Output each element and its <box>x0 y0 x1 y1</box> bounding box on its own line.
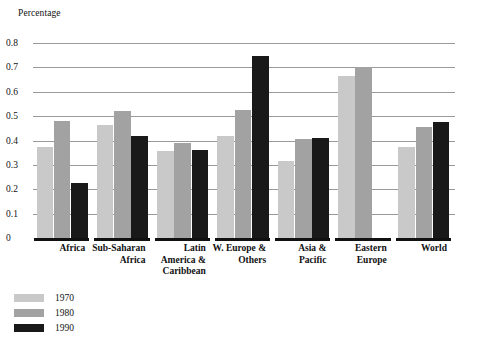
y-tick-label: 0.4 <box>6 136 18 146</box>
bar-1970 <box>398 147 415 238</box>
legend-swatch <box>14 294 44 302</box>
x-axis-label: World <box>389 243 447 255</box>
x-axis-label: Sub-SaharanAfrica <box>87 243 145 266</box>
x-axis-segment <box>34 238 89 241</box>
bar-1990 <box>312 138 329 238</box>
legend-label: 1990 <box>55 323 74 333</box>
y-tick-label: 0.3 <box>6 160 18 170</box>
x-axis-segment <box>275 238 330 241</box>
bar-group <box>334 43 394 238</box>
bar-1990 <box>131 136 148 238</box>
x-axis-label-line: Europe <box>328 255 386 267</box>
x-axis-label-line: Caribbean <box>148 266 206 278</box>
bar-1970 <box>157 151 174 238</box>
bar-1980 <box>174 143 191 238</box>
x-axis-label: Africa <box>27 243 85 255</box>
bar-1970 <box>278 161 295 238</box>
x-axis-label-line: Africa <box>87 255 145 267</box>
bar-1970 <box>217 136 234 238</box>
x-axis-segment <box>215 238 270 241</box>
bar-group <box>93 43 153 238</box>
x-axis-label-line: Latin <box>148 243 206 255</box>
legend-label: 1970 <box>55 293 74 303</box>
bar-1980 <box>235 110 252 238</box>
chart-legend: 197019801990 <box>14 292 74 337</box>
bar-1980 <box>355 67 372 238</box>
x-axis-label-line: Sub-Saharan <box>87 243 145 255</box>
legend-swatch <box>14 324 44 332</box>
x-axis-label-line: Others <box>208 255 266 267</box>
legend-item: 1970 <box>14 292 74 304</box>
x-axis-label-line: Pacific <box>268 255 326 267</box>
bar-1980 <box>295 139 312 238</box>
x-axis-label: W. Europe &Others <box>208 243 266 266</box>
x-axis-label: LatinAmerica &Caribbean <box>148 243 206 278</box>
x-axis-label-line: Eastern <box>328 243 386 255</box>
bar-1970 <box>37 147 54 238</box>
bar-1980 <box>54 121 71 238</box>
x-axis-label-line: Asia & <box>268 243 326 255</box>
bar-group <box>395 43 455 238</box>
y-tick-label: 0.6 <box>6 87 18 97</box>
x-axis-label-line: World <box>389 243 447 255</box>
bar-1970 <box>338 76 355 238</box>
bar-group <box>274 43 334 238</box>
x-axis-segment <box>155 238 210 241</box>
y-axis-title: Percentage <box>18 8 61 18</box>
x-axis-segment <box>94 238 149 241</box>
bar-groups-layer <box>33 43 455 238</box>
legend-item: 1990 <box>14 322 74 334</box>
x-axis-label-line: America & <box>148 255 206 267</box>
y-tick-label: 0.7 <box>6 62 18 72</box>
legend-swatch <box>14 309 44 317</box>
x-axis-label-line: W. Europe & <box>208 243 266 255</box>
bar-group <box>214 43 274 238</box>
x-axis-segment <box>396 238 451 241</box>
bar-group <box>154 43 214 238</box>
y-tick-label: 0.5 <box>6 111 18 121</box>
x-axis-label: Asia &Pacific <box>268 243 326 266</box>
y-tick-label: 0.1 <box>6 209 18 219</box>
bar-1990 <box>192 150 209 238</box>
y-tick-label: 0 <box>6 233 11 243</box>
y-tick-label: 0.2 <box>6 184 18 194</box>
x-axis-label: EasternEurope <box>328 243 386 266</box>
bar-group <box>33 43 93 238</box>
category-labels-layer: AfricaSub-SaharanAfricaLatinAmerica &Car… <box>33 243 457 289</box>
bar-1990 <box>252 56 269 238</box>
bar-1980 <box>416 127 433 238</box>
bar-chart: Percentage 00.10.20.30.40.50.60.70.8 Afr… <box>0 0 478 341</box>
legend-item: 1980 <box>14 307 74 319</box>
x-axis-segment <box>335 238 390 241</box>
bar-1990 <box>71 183 88 238</box>
bar-1970 <box>97 125 114 238</box>
y-tick-label: 0.8 <box>6 38 18 48</box>
x-axis-label-line: Africa <box>27 243 85 255</box>
bar-1980 <box>114 111 131 238</box>
bar-1990 <box>433 122 450 238</box>
legend-label: 1980 <box>55 308 74 318</box>
x-axis-layer <box>33 238 455 242</box>
